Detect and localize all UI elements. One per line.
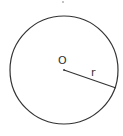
radius-line — [64, 70, 116, 88]
radius-label: r — [91, 66, 96, 79]
circle-diagram: O r — [0, 0, 123, 136]
center-label: O — [58, 54, 67, 67]
